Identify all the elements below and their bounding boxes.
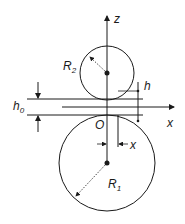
x-axis-label: x: [166, 116, 174, 130]
r2-label: R2: [63, 59, 77, 75]
contact-geometry-diagram: z R2 R1 x O h0 h x: [0, 0, 185, 224]
r1-label: R1: [108, 177, 121, 193]
x-dimension-label: x: [129, 138, 137, 152]
h-label: h: [144, 79, 151, 93]
z-axis-label: z: [113, 12, 120, 26]
h-dimension: [118, 82, 139, 122]
r1-radius-arrow: [76, 163, 107, 196]
r2-radius-arrow: [90, 57, 107, 73]
origin-label: O: [95, 118, 104, 132]
h0-label: h0: [13, 99, 25, 115]
